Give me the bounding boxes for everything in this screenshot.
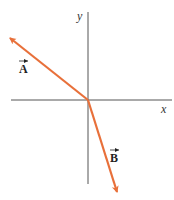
vector-b-arrow [88,100,117,192]
vector-diagram: x y A B [0,0,174,200]
vector-a-label: A [19,62,28,76]
y-axis-label: y [76,9,83,23]
x-axis-label: x [160,102,167,116]
vector-b-label: B [110,151,118,165]
